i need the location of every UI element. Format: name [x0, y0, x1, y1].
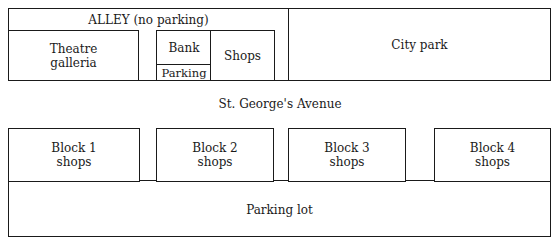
alley-label: ALLEY (no parking) — [88, 13, 208, 27]
block-2: Block 2 shops — [156, 128, 274, 182]
shops-label: Shops — [224, 49, 261, 63]
theatre-label-line1: Theatre — [50, 42, 98, 56]
block-3: Block 3 shops — [288, 128, 406, 182]
block-3-label: Block 3 — [324, 141, 369, 155]
block-1-sub: shops — [57, 155, 92, 169]
block-4-sub: shops — [475, 155, 510, 169]
city-park: City park — [288, 8, 551, 81]
block-2-sub: shops — [198, 155, 233, 169]
bank-parking: Parking — [156, 64, 212, 81]
shops: Shops — [210, 30, 275, 81]
theatre-label-line2: galleria — [50, 56, 96, 70]
street-label: St. George's Avenue — [0, 97, 560, 111]
block-4-label: Block 4 — [470, 141, 515, 155]
block-2-label: Block 2 — [192, 141, 237, 155]
block-4: Block 4 shops — [434, 128, 551, 182]
block-3-sub: shops — [330, 155, 365, 169]
city-park-label: City park — [391, 38, 447, 52]
bank-parking-label: Parking — [162, 66, 207, 80]
parking-lot: Parking lot — [8, 180, 551, 237]
theatre-galleria: Theatre galleria — [8, 30, 139, 81]
bank: Bank — [156, 30, 212, 66]
parking-lot-label: Parking lot — [246, 203, 313, 217]
bank-label: Bank — [169, 41, 200, 55]
block-1: Block 1 shops — [8, 128, 140, 182]
block-1-label: Block 1 — [51, 141, 96, 155]
